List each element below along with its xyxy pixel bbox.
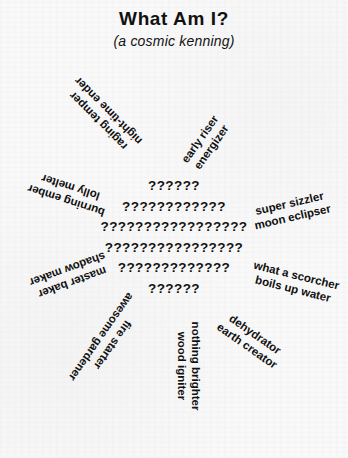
kenning-line-2: wood igniter [175, 322, 189, 411]
kenning-raging-temper: raging temper night-time ender [61, 74, 145, 158]
worksheet-page: What Am I? (a cosmic kenning) ?????? ???… [0, 0, 348, 458]
kenning-line-1: nothing brighter [189, 322, 203, 411]
kenning-dehydrator: dehydrator earth creator [214, 308, 288, 371]
kenning-early-riser: early riser energizer [178, 112, 232, 173]
question-mark-row: ???????????????? [0, 238, 348, 259]
heading-block: What Am I? (a cosmic kenning) [0, 8, 348, 49]
page-subtitle: (a cosmic kenning) [0, 33, 348, 49]
page-title: What Am I? [0, 8, 348, 30]
kenning-nothing-brighter: nothing brighter wood igniter [175, 322, 203, 411]
kenning-fire-starter: fire starter awesome gardener [66, 290, 149, 391]
